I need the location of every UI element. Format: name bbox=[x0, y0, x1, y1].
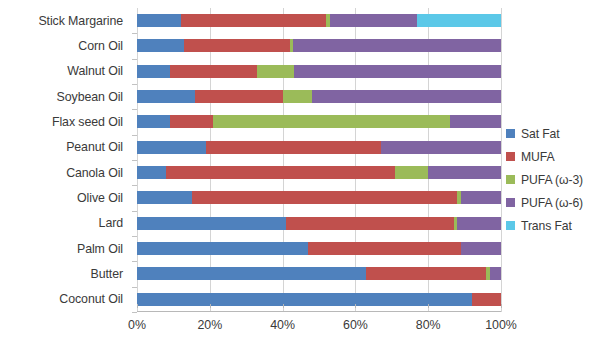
category-tickmark bbox=[132, 312, 137, 313]
value-axis-tickmark bbox=[137, 304, 138, 308]
bar-segment[interactable] bbox=[170, 115, 214, 128]
bar-row bbox=[137, 211, 501, 236]
bar-segment[interactable] bbox=[195, 90, 282, 103]
stacked-bar[interactable] bbox=[137, 217, 501, 230]
value-axis-tickmark bbox=[210, 304, 211, 308]
bar-row bbox=[137, 236, 501, 261]
category-label: Butter bbox=[0, 261, 130, 286]
stacked-bar[interactable] bbox=[137, 65, 501, 78]
legend-item[interactable]: PUFA (ω-6) bbox=[506, 191, 598, 214]
bar-segment[interactable] bbox=[137, 191, 192, 204]
legend-label: PUFA (ω-6) bbox=[521, 196, 583, 210]
bar-segment[interactable] bbox=[137, 293, 472, 306]
value-axis-tickmark bbox=[428, 304, 429, 308]
bar-segment[interactable] bbox=[257, 65, 293, 78]
legend-label: PUFA (ω-3) bbox=[521, 173, 583, 187]
category-label: Lard bbox=[0, 211, 130, 236]
stacked-bar[interactable] bbox=[137, 166, 501, 179]
bar-segment[interactable] bbox=[137, 90, 195, 103]
category-tickmark bbox=[132, 135, 137, 136]
bar-segment[interactable] bbox=[312, 90, 501, 103]
legend-swatch-icon bbox=[506, 129, 515, 138]
category-tickmark bbox=[132, 59, 137, 60]
bar-segment[interactable] bbox=[137, 217, 286, 230]
stacked-bar[interactable] bbox=[137, 90, 501, 103]
category-tickmark bbox=[132, 84, 137, 85]
bar-row bbox=[137, 160, 501, 185]
bar-segment[interactable] bbox=[366, 267, 486, 280]
category-label: Peanut Oil bbox=[0, 135, 130, 160]
bar-segment[interactable] bbox=[461, 191, 501, 204]
bar-segment[interactable] bbox=[184, 39, 290, 52]
bar-segment[interactable] bbox=[192, 191, 458, 204]
legend-swatch-icon bbox=[506, 198, 515, 207]
category-label: Stick Margarine bbox=[0, 8, 130, 33]
bar-segment[interactable] bbox=[294, 65, 501, 78]
legend-item[interactable]: Trans Fat bbox=[506, 214, 598, 237]
category-label: Coconut Oil bbox=[0, 287, 130, 312]
value-axis-tick-label: 0% bbox=[128, 318, 146, 332]
legend-item[interactable]: Sat Fat bbox=[506, 122, 598, 145]
legend-label: Sat Fat bbox=[521, 127, 560, 141]
bar-segment[interactable] bbox=[472, 293, 501, 306]
value-axis-tick-labels: 0%20%40%60%80%100% bbox=[137, 318, 501, 338]
bar-segment[interactable] bbox=[137, 39, 184, 52]
bar-segment[interactable] bbox=[330, 14, 417, 27]
bar-segment[interactable] bbox=[137, 14, 181, 27]
bar-segment[interactable] bbox=[461, 242, 501, 255]
stacked-bar[interactable] bbox=[137, 115, 501, 128]
gridline bbox=[501, 8, 502, 312]
value-axis-tickmark bbox=[283, 304, 284, 308]
bar-segment[interactable] bbox=[286, 217, 453, 230]
bar-segment[interactable] bbox=[308, 242, 461, 255]
bar-row bbox=[137, 261, 501, 286]
stacked-bar[interactable] bbox=[137, 39, 501, 52]
bar-segment[interactable] bbox=[490, 267, 501, 280]
bar-segment[interactable] bbox=[283, 90, 312, 103]
category-tickmark bbox=[132, 211, 137, 212]
category-tickmark bbox=[132, 236, 137, 237]
bar-row bbox=[137, 185, 501, 210]
bar-segment[interactable] bbox=[170, 65, 257, 78]
bar-segment[interactable] bbox=[137, 166, 166, 179]
bar-segment[interactable] bbox=[166, 166, 395, 179]
legend-item[interactable]: MUFA bbox=[506, 145, 598, 168]
bar-segment[interactable] bbox=[137, 141, 206, 154]
bar-segment[interactable] bbox=[137, 115, 170, 128]
bar-segment[interactable] bbox=[137, 267, 366, 280]
stacked-bar[interactable] bbox=[137, 14, 501, 27]
bar-segment[interactable] bbox=[213, 115, 450, 128]
legend-item[interactable]: PUFA (ω-3) bbox=[506, 168, 598, 191]
stacked-bar[interactable] bbox=[137, 141, 501, 154]
category-label: Palm Oil bbox=[0, 236, 130, 261]
value-axis-tickmark bbox=[355, 304, 356, 308]
bar-segment[interactable] bbox=[417, 14, 501, 27]
bar-segment[interactable] bbox=[137, 65, 170, 78]
legend-swatch-icon bbox=[506, 175, 515, 184]
bar-segment[interactable] bbox=[395, 166, 428, 179]
stacked-bar[interactable] bbox=[137, 191, 501, 204]
bar-series-container bbox=[137, 8, 501, 312]
bar-segment[interactable] bbox=[450, 115, 501, 128]
bar-segment[interactable] bbox=[206, 141, 381, 154]
category-label: Flax seed Oil bbox=[0, 109, 130, 134]
value-axis-tickmark bbox=[501, 304, 502, 308]
stacked-bar[interactable] bbox=[137, 267, 501, 280]
category-tickmark bbox=[132, 33, 137, 34]
bar-row bbox=[137, 287, 501, 312]
bar-segment[interactable] bbox=[457, 217, 501, 230]
bar-segment[interactable] bbox=[381, 141, 501, 154]
bar-row bbox=[137, 8, 501, 33]
stacked-bar[interactable] bbox=[137, 242, 501, 255]
category-label: Canola Oil bbox=[0, 160, 130, 185]
bar-segment[interactable] bbox=[181, 14, 327, 27]
stacked-bar[interactable] bbox=[137, 293, 501, 306]
bar-segment[interactable] bbox=[137, 242, 308, 255]
value-axis-line bbox=[137, 311, 501, 312]
category-tickmark bbox=[132, 185, 137, 186]
bar-row bbox=[137, 135, 501, 160]
bar-row bbox=[137, 59, 501, 84]
bar-segment[interactable] bbox=[428, 166, 501, 179]
bar-segment[interactable] bbox=[293, 39, 500, 52]
value-axis-tick-label: 20% bbox=[197, 318, 222, 332]
